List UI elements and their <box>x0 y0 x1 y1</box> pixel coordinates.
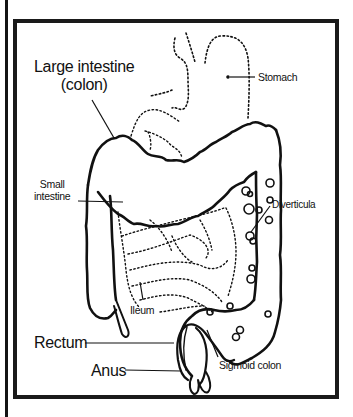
label-small-intestine: Small intestine <box>34 178 70 202</box>
colon-text: (colon) <box>34 76 134 94</box>
transverse-colon <box>88 122 276 185</box>
label-diverticula: Diverticula <box>272 199 315 211</box>
small-intestine-leader <box>78 201 123 202</box>
large-intestine-leader <box>92 100 114 138</box>
intestine-text: intestine <box>34 190 70 202</box>
label-anus: Anus <box>91 362 126 380</box>
label-ileum: Ileum <box>130 304 154 316</box>
label-stomach: Stomach <box>258 71 297 83</box>
appendix <box>114 300 129 337</box>
ileum-leader <box>140 282 143 300</box>
anus-leader <box>125 370 181 371</box>
sigmoid-leader <box>207 330 218 357</box>
stomach-outline <box>186 33 249 118</box>
large-intestine-text: Large intestine <box>34 58 134 76</box>
label-sigmoid-colon: Sigmoid colon <box>219 359 281 371</box>
label-rectum: Rectum <box>34 334 87 352</box>
label-large-intestine: Large intestine (colon) <box>34 58 134 94</box>
small-text: Small <box>34 178 70 190</box>
